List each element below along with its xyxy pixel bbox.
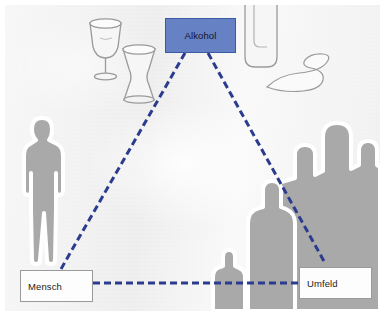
node-alkohol[interactable]: Alkohol [165,18,236,53]
node-umfeld-label: Umfeld [307,278,338,289]
diagram-panel: Alkohol Mensch Umfeld [5,5,380,311]
figure-canvas: Alkohol Mensch Umfeld [0,0,385,322]
node-mensch[interactable]: Mensch [20,270,93,302]
node-mensch-label: Mensch [28,281,62,292]
node-umfeld[interactable]: Umfeld [299,267,372,299]
connector-alkohol-mensch [61,53,185,269]
connector-alkohol-umfeld [208,53,325,263]
node-alkohol-label: Alkohol [185,30,217,41]
